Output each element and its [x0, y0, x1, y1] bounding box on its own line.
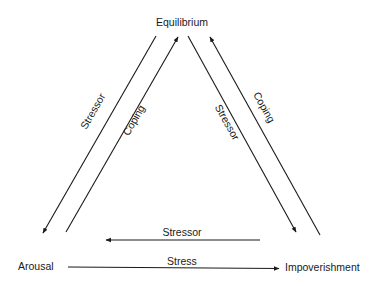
label-bottom-stressor: Stressor: [162, 226, 202, 238]
label-left-stressor: Stressor: [78, 91, 108, 131]
node-arousal: Arousal: [18, 260, 54, 272]
stress-triangle-diagram: Equilibrium Arousal Impoverishment Stres…: [0, 0, 376, 286]
label-right-stressor: Stressor: [213, 102, 243, 142]
arrow-right-outer-coping: [210, 37, 320, 235]
arrow-bottom-stress: [68, 267, 279, 269]
label-left-coping: Coping: [120, 102, 147, 137]
node-impoverishment: Impoverishment: [285, 261, 360, 273]
arrow-left-inner-coping: [66, 37, 178, 232]
node-equilibrium: Equilibrium: [156, 16, 208, 28]
label-bottom-stress: Stress: [167, 255, 197, 267]
arrow-left-outer-stressor: [43, 36, 156, 233]
